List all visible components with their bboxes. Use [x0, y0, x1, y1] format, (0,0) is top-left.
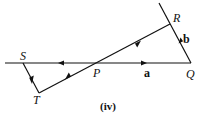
- label-s: S: [20, 49, 26, 63]
- label-q: Q: [186, 67, 195, 81]
- line-tr: [39, 24, 170, 93]
- arrow-a-icon: [141, 61, 147, 66]
- label-vector-b: b: [183, 32, 190, 46]
- arrow-ps-icon: [58, 61, 64, 66]
- caption: (iv): [100, 100, 116, 113]
- vector-diagram: S P Q R T a b (iv): [0, 0, 208, 123]
- label-vector-a: a: [144, 66, 150, 80]
- label-t: T: [33, 93, 41, 107]
- arrow-pt-icon: [65, 72, 71, 79]
- label-r: R: [172, 11, 181, 25]
- label-p: P: [92, 66, 101, 80]
